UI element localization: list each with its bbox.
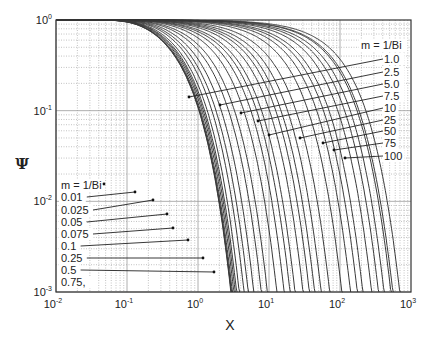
- right-group-label: 5.0: [384, 78, 399, 90]
- arrow-head: [152, 199, 155, 202]
- arrow-head: [188, 96, 191, 99]
- left-group-label: 0.1: [61, 240, 76, 252]
- arrow-head: [268, 134, 271, 137]
- arrow-head: [299, 137, 302, 140]
- right-group-label: 10: [384, 102, 396, 114]
- arrow-head: [333, 149, 336, 152]
- left-group-label: 0.01: [61, 191, 82, 203]
- left-group-label: 0.5: [61, 264, 76, 276]
- left-group-label: 0.75,: [61, 276, 85, 288]
- arrow-head: [202, 257, 205, 260]
- right-group-label: 50: [384, 125, 396, 137]
- y-axis-title: Ψ: [15, 155, 29, 173]
- arrow-head: [134, 191, 137, 194]
- right-group-header: m = 1/Bi: [361, 39, 402, 51]
- arrow-head: [103, 183, 106, 186]
- right-group-label: 100: [384, 150, 402, 162]
- arrow-head: [257, 120, 260, 123]
- arrow-head: [322, 142, 325, 145]
- right-group-label: 7.5: [384, 90, 399, 102]
- arrow-head: [240, 112, 243, 115]
- x-axis-title: X: [225, 317, 235, 333]
- right-group-label: 2.5: [384, 66, 399, 78]
- arrow-head: [219, 104, 222, 107]
- arrow-head: [344, 157, 347, 160]
- left-group-label: 0.075: [61, 228, 89, 240]
- arrow-head: [213, 271, 216, 274]
- right-group-label: 1.0: [384, 53, 399, 65]
- left-group-label: 0.25: [61, 252, 82, 264]
- left-group-header: m = 1/Bi: [61, 179, 102, 191]
- arrow-head: [187, 239, 190, 242]
- right-group-label: 75: [384, 137, 396, 149]
- left-group-label: 0.05: [61, 216, 82, 228]
- left-group-label: 0.025: [61, 204, 89, 216]
- chart-canvas: 10-210-1100101102103 10010-110-210-3 m =…: [0, 0, 437, 337]
- arrow-head: [166, 213, 169, 216]
- arrow-head: [172, 227, 175, 230]
